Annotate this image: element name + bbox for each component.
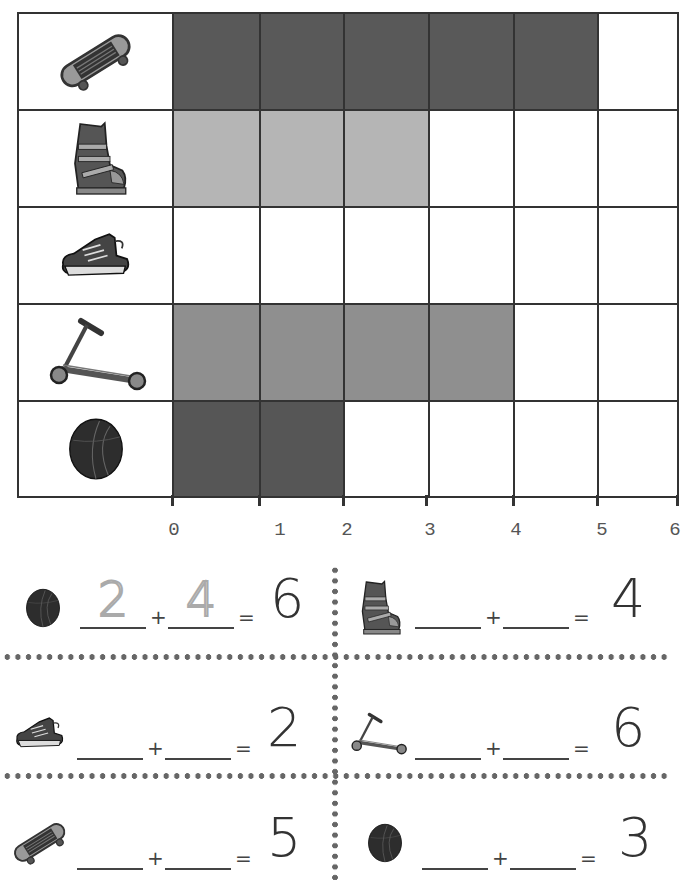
graph-cell (259, 206, 345, 305)
graph-cell (343, 109, 430, 208)
row-label-sneaker (17, 206, 174, 305)
equation-picture (5, 808, 75, 878)
equation-picture (8, 573, 78, 643)
graph-cell (343, 206, 430, 305)
graph-cell (428, 109, 515, 208)
sneaker-icon (56, 228, 136, 283)
scooter-icon (41, 313, 151, 393)
skateboard-icon (51, 29, 141, 94)
addend-1-blank[interactable] (415, 758, 481, 760)
addend-2-blank[interactable] (510, 868, 576, 870)
row-label-scooter (17, 303, 174, 402)
equals-sign: = (235, 846, 252, 870)
axis-tick-label: 1 (274, 519, 285, 541)
graph-cell (597, 12, 679, 111)
ski-boot-icon (61, 119, 131, 199)
axis-tick-label: 5 (596, 519, 607, 541)
graph-cell (428, 400, 515, 498)
graph-cell (343, 303, 430, 402)
graph-cell (513, 206, 599, 305)
plus-sign: + (147, 846, 164, 870)
graph-cell (259, 109, 345, 208)
equals-sign: = (235, 736, 252, 760)
graph-cell (343, 400, 430, 498)
ski-boot-icon (352, 578, 404, 638)
graph-cell (428, 206, 515, 305)
graph-cell (513, 303, 599, 402)
plus-sign: + (150, 605, 167, 629)
ball-icon (61, 414, 131, 484)
axis-tick-label: 3 (424, 519, 435, 541)
equals-sign: = (573, 605, 590, 629)
addend-1-value: 2 (80, 571, 146, 627)
axis-tick-label: 4 (510, 519, 521, 541)
sum-total: 6 (270, 567, 304, 630)
graph-cell (172, 206, 261, 305)
graph-cell (597, 109, 679, 208)
graph-cell (513, 109, 599, 208)
graph-cell (597, 303, 679, 402)
addend-2-blank[interactable] (165, 758, 231, 760)
equation-2: +=4 (343, 565, 673, 665)
graph-cell (513, 12, 599, 111)
equation-5: +=5 (5, 792, 335, 892)
axis-tick (342, 495, 345, 506)
axis-tick-label: 0 (168, 519, 179, 541)
graph-cell (597, 206, 679, 305)
graph-cell (172, 109, 261, 208)
graph-cell (428, 12, 515, 111)
addend-2-blank[interactable] (165, 868, 231, 870)
addend-1-blank[interactable] (415, 627, 481, 629)
axis-tick (258, 495, 261, 506)
equation-1: 2+4=6 (8, 565, 338, 665)
addend-1-blank[interactable] (80, 627, 146, 629)
ball-icon (21, 586, 65, 630)
equation-picture (5, 698, 75, 768)
sneaker-icon (12, 713, 68, 753)
axis-tick (171, 495, 174, 506)
graph-cell (259, 12, 345, 111)
axis-tick (676, 495, 679, 506)
equation-picture (343, 698, 413, 768)
ball-icon (363, 821, 407, 865)
graph-cell (597, 400, 679, 498)
addend-2-blank[interactable] (503, 627, 569, 629)
sum-total: 3 (618, 806, 652, 869)
plus-sign: + (492, 846, 509, 870)
row-label-ski-boot (17, 109, 174, 208)
picture-graph (17, 12, 677, 496)
skateboard-icon (7, 818, 73, 868)
equals-sign: = (573, 736, 590, 760)
graph-cell (513, 400, 599, 498)
axis-tick-label: 6 (669, 519, 680, 541)
sum-total: 4 (611, 567, 645, 630)
row-label-ball (17, 400, 174, 498)
equals-sign: = (580, 846, 597, 870)
row-label-skateboard (17, 12, 174, 111)
addend-2-value: 4 (168, 571, 234, 627)
graph-cell (172, 400, 261, 498)
equation-6: +=3 (350, 792, 680, 892)
sum-total: 5 (267, 806, 301, 869)
addend-1-blank[interactable] (77, 758, 143, 760)
sum-total: 6 (611, 696, 645, 759)
addend-2-blank[interactable] (503, 758, 569, 760)
plus-sign: + (485, 605, 502, 629)
sum-total: 2 (267, 696, 301, 759)
addend-1-blank[interactable] (422, 868, 488, 870)
axis-tick (425, 495, 428, 506)
plus-sign: + (147, 736, 164, 760)
graph-cell (428, 303, 515, 402)
equation-picture (350, 808, 420, 878)
graph-cell (259, 303, 345, 402)
scooter-icon (346, 710, 410, 756)
graph-cell (172, 12, 261, 111)
equation-4: +=6 (343, 682, 673, 782)
equals-sign: = (238, 605, 255, 629)
equation-picture (343, 573, 413, 643)
addend-2-blank[interactable] (168, 627, 234, 629)
axis-tick (596, 495, 599, 506)
addend-1-blank[interactable] (77, 868, 143, 870)
axis-tick-label: 2 (341, 519, 352, 541)
graph-cell (259, 400, 345, 498)
